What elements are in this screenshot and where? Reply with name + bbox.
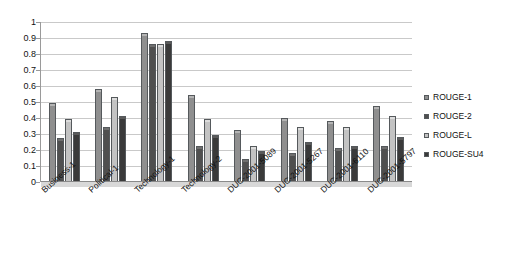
bar-top-face (188, 95, 195, 98)
bar-top-face (389, 116, 396, 119)
bar (95, 91, 102, 182)
bar (188, 97, 195, 182)
bar-top-face (65, 119, 72, 122)
legend-swatch-icon (424, 114, 429, 119)
y-axis: 10.90.80.70.60.50.40.30.20.10 (0, 22, 36, 182)
bar (141, 35, 148, 182)
x-axis-label-slot: Technology-2 (180, 186, 227, 256)
x-axis-labels: Business-1Political-1Technology-1Technol… (40, 186, 412, 256)
bar-top-face (57, 138, 64, 141)
x-axis-label-slot: Political-1 (87, 186, 134, 256)
x-axis-label-slot: DUC-2001-6110 (319, 186, 366, 256)
y-axis-tick-label: 0.8 (23, 50, 36, 59)
bar-top-face (381, 146, 388, 149)
x-axis-label-slot: DUC-2001-5797 (366, 186, 413, 256)
x-axis-label-slot: DUC-2001-5089 (226, 186, 273, 256)
y-axis-tick-label: 0.5 (23, 98, 36, 107)
legend-label: ROUGE-1 (433, 93, 472, 102)
chart-legend: ROUGE-1ROUGE-2ROUGE-LROUGE-SU4 (424, 88, 516, 164)
x-axis-label-slot: Business-1 (40, 186, 87, 256)
legend-label: ROUGE-L (433, 131, 472, 140)
bar-top-face (103, 127, 110, 130)
bar-top-face (281, 118, 288, 121)
x-axis-label-slot: DUC-2001-5267 (273, 186, 320, 256)
bar-top-face (73, 132, 80, 135)
legend-swatch-icon (424, 95, 429, 100)
y-axis-tick-label: 0.2 (23, 146, 36, 155)
bar-group (87, 22, 133, 182)
bar-top-face (119, 116, 126, 119)
bar (373, 108, 380, 182)
bar-top-face (305, 142, 312, 145)
legend-label: ROUGE-2 (433, 112, 472, 121)
bar-group (41, 22, 87, 182)
bar-top-face (335, 148, 342, 151)
bar (149, 46, 156, 182)
legend-label: ROUGE-SU4 (433, 150, 484, 159)
y-axis-tick-label: 0.9 (23, 34, 36, 43)
bar-top-face (204, 119, 211, 122)
legend-item: ROUGE-1 (424, 88, 516, 107)
bar-top-face (250, 146, 257, 149)
bar-top-face (351, 146, 358, 149)
y-axis-tick-label: 0.7 (23, 66, 36, 75)
bar (49, 105, 56, 182)
y-axis-tick-label: 0.3 (23, 130, 36, 139)
legend-item: ROUGE-2 (424, 107, 516, 126)
bar-top-face (373, 106, 380, 109)
bar-top-face (289, 153, 296, 156)
bar-top-face (95, 89, 102, 92)
legend-swatch-icon (424, 133, 429, 138)
bar-top-face (327, 121, 334, 124)
y-axis-tick-label: 0.6 (23, 82, 36, 91)
bar-top-face (343, 127, 350, 130)
bar-top-face (157, 44, 164, 47)
bar-top-face (149, 44, 156, 47)
bar (73, 134, 80, 182)
bar-top-face (397, 137, 404, 140)
bar-top-face (165, 41, 172, 44)
bar-top-face (141, 33, 148, 36)
x-axis-label-slot: Technology-1 (133, 186, 180, 256)
bar-top-face (212, 135, 219, 138)
y-axis-tick-mark (36, 182, 40, 183)
legend-item: ROUGE-L (424, 126, 516, 145)
bar-top-face (111, 97, 118, 100)
bar (119, 118, 126, 182)
y-axis-tick-label: 0.4 (23, 114, 36, 123)
bar-top-face (297, 127, 304, 130)
bar-top-face (196, 146, 203, 149)
legend-swatch-icon (424, 152, 429, 157)
rouge-scores-bar-chart: 10.90.80.70.60.50.40.30.20.10 Business-1… (0, 0, 519, 262)
bar-top-face (49, 103, 56, 106)
y-axis-tick-label: 0.1 (23, 162, 36, 171)
bar-top-face (234, 130, 241, 133)
legend-item: ROUGE-SU4 (424, 145, 516, 164)
bar-top-face (242, 159, 249, 162)
